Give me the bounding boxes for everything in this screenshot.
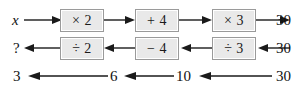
inverse-operation-box-3: ÷ 3 [212,37,256,60]
arrow-values-1 [26,70,108,82]
arrow-inverse-2 [104,42,135,54]
forward-row-input-label: x [12,13,19,28]
function-machine-diagram: x × 2 + 4 × 3 30 ? ÷ 2 − 4 ÷ 3 3 [0,0,308,90]
arrow-forward-2 [104,14,135,26]
arrow-forward-3 [179,14,212,26]
inverse-operation-box-2: − 4 [135,37,179,60]
value-label-3: 10 [176,69,191,84]
arrow-values-3 [197,70,272,82]
inverse-row-output-label: ? [13,41,20,56]
forward-operation-box-1: × 2 [60,9,104,32]
forward-operation-box-2: + 4 [135,9,179,32]
value-label-4: 30 [276,69,291,84]
forward-operation-box-3: × 3 [212,9,256,32]
inverse-row-input-label: 30 [276,41,291,56]
forward-row-output-label: 30 [276,13,291,28]
value-label-2: 6 [110,69,118,84]
arrow-forward-1 [24,14,62,26]
arrow-inverse-1 [25,42,60,54]
arrow-values-2 [122,70,174,82]
arrow-inverse-3 [179,42,212,54]
value-label-1: 3 [13,69,21,84]
inverse-operation-box-1: ÷ 2 [60,37,104,60]
